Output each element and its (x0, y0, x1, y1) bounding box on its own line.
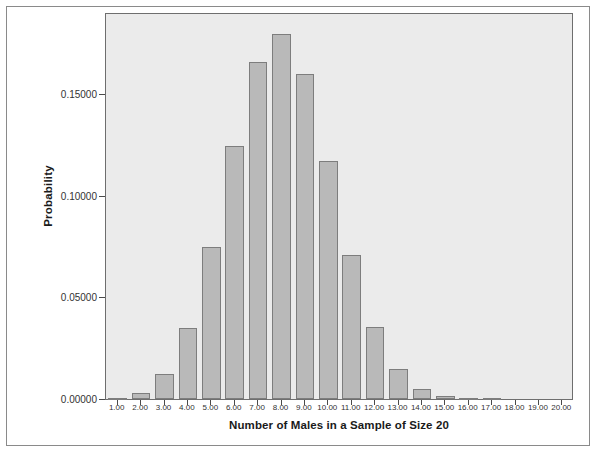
x-tick-label: 19.00 (528, 403, 548, 412)
histogram-bar (389, 369, 408, 399)
x-tick-label: 4.00 (179, 403, 195, 412)
histogram-bar (202, 247, 221, 399)
x-axis-title: Number of Males in a Sample of Size 20 (105, 419, 573, 431)
x-tick-label: 12.00 (364, 403, 384, 412)
x-tick-label: 11.00 (341, 403, 360, 412)
probability-histogram-chart: Probability 0.000000.050000.100000.15000… (0, 0, 598, 451)
x-tick-label: 9.00 (296, 403, 312, 412)
histogram-bar (459, 398, 478, 400)
histogram-bar (413, 389, 432, 399)
x-tick-label: 17.00 (481, 403, 501, 412)
x-tick-label: 3.00 (156, 403, 172, 412)
x-tick-label: 1.00 (109, 403, 125, 412)
x-tick-label: 20.00 (551, 403, 571, 412)
histogram-bar (108, 398, 127, 400)
x-tick-label: 13.00 (387, 403, 407, 412)
x-tick-label: 14.00 (411, 403, 431, 412)
x-tick-label: 7.00 (249, 403, 265, 412)
x-tick-label: 6.00 (226, 403, 242, 412)
histogram-bar (249, 62, 268, 399)
bars-layer (106, 14, 572, 399)
x-tick-label: 10.00 (317, 403, 337, 412)
x-tick-label: 8.00 (273, 403, 289, 412)
x-tick-label: 5.00 (203, 403, 219, 412)
histogram-bar (483, 398, 502, 400)
histogram-bar (179, 328, 198, 399)
x-tick-label: 16.00 (458, 403, 478, 412)
x-tick-label: 15.00 (434, 403, 454, 412)
histogram-bar (296, 74, 315, 399)
y-tick-label: 0.05000 (27, 292, 97, 303)
page-root: Probability 0.000000.050000.100000.15000… (0, 0, 598, 451)
y-tick-label: 0.10000 (27, 190, 97, 201)
x-tick-label: 18.00 (504, 403, 524, 412)
histogram-bar (132, 393, 151, 399)
y-tick-label: 0.15000 (27, 89, 97, 100)
x-tick-label: 2.00 (132, 403, 148, 412)
histogram-bar (366, 327, 385, 399)
y-tick-label: 0.00000 (27, 394, 97, 405)
histogram-bar (225, 146, 244, 399)
histogram-bar (436, 396, 455, 399)
histogram-bar (272, 34, 291, 399)
histogram-bar (319, 161, 338, 399)
histogram-bar (342, 255, 361, 399)
plot-panel (105, 13, 573, 400)
histogram-bar (155, 374, 174, 399)
